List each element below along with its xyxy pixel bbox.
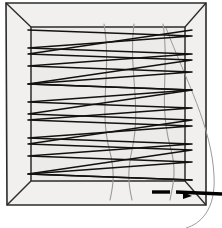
pointer-dash: [176, 192, 222, 194]
box-diagram-svg: [0, 0, 222, 228]
figure-container: [0, 0, 222, 228]
